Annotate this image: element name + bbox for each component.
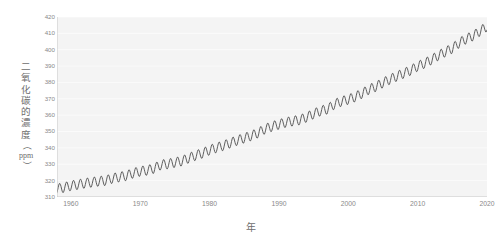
y-tick-label: 400 — [35, 47, 55, 53]
chart-figure: 二 氧 化 碳 的 濃 度 （ ppm ） 310320330340350360… — [0, 0, 502, 243]
x-tick-label: 2000 — [328, 200, 368, 207]
x-tick-label: 1970 — [120, 200, 160, 207]
y-tick-label: 370 — [35, 96, 55, 102]
y-axis-title-char: 度 — [21, 129, 31, 140]
x-axis-tick-labels: 1960197019801990200020102020 — [57, 200, 487, 214]
x-tick-label: 2010 — [398, 200, 438, 207]
x-tick-label: 1960 — [51, 200, 91, 207]
y-axis-tick-labels: 310320330340350360370380390400410420 — [33, 17, 55, 197]
y-axis-title-char: 的 — [21, 106, 31, 117]
y-tick-label: 390 — [35, 63, 55, 69]
y-axis-unit-label: ppm — [19, 151, 33, 160]
plot-background — [57, 17, 487, 197]
y-axis-title-char: 氧 — [21, 72, 31, 83]
y-tick-label: 350 — [35, 128, 55, 134]
x-tick-label: 2020 — [467, 200, 502, 207]
y-tick-label: 410 — [35, 30, 55, 36]
chart-canvas — [57, 17, 487, 197]
y-tick-label: 420 — [35, 14, 55, 20]
x-tick-label: 1980 — [190, 200, 230, 207]
y-axis-title-char: 碳 — [21, 95, 31, 106]
y-tick-label: 380 — [35, 79, 55, 85]
plot-area — [57, 17, 487, 197]
y-tick-label: 320 — [35, 178, 55, 184]
y-tick-label: 330 — [35, 161, 55, 167]
y-axis-title-paren-open: （ — [22, 141, 31, 150]
y-axis-title-paren-close: ） — [22, 161, 31, 170]
y-axis-title-char: 化 — [21, 84, 31, 95]
x-tick-label: 1990 — [259, 200, 299, 207]
y-axis-title-char: 二 — [21, 61, 31, 72]
x-axis-title: 年 — [0, 219, 502, 234]
y-axis-title-char: 濃 — [21, 117, 31, 128]
y-tick-label: 340 — [35, 145, 55, 151]
y-tick-label: 360 — [35, 112, 55, 118]
